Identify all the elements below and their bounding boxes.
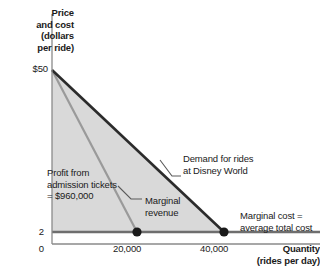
demand-annotation: Demand for rides at Disney World [183,153,253,176]
x-axis-title: Quantity (rides per day) [238,243,320,266]
y-tick-label-0: 0 [28,243,44,255]
marginal-revenue-annotation: Marginal revenue [145,195,180,218]
demand-annotation-line-2: at Disney World [183,165,253,177]
data-point-40000 [219,227,228,236]
data-point-20000 [132,227,141,236]
y-axis-title-line-3: (dollars [0,30,74,42]
y-axis-title-line-1: Price [0,7,74,19]
profit-annotation-line-2: admission tickets [47,179,117,191]
marginal-revenue-annotation-line-2: revenue [145,207,180,219]
x-tick-label-40000: 40,000 [200,243,228,255]
demand-annotation-line-1: Demand for rides [183,153,253,165]
profit-annotation: Profit from admission tickets = $960,000 [47,167,117,202]
y-axis-title-line-2: and cost [0,19,74,31]
marginal-cost-annotation-line-2: average total cost [240,222,312,234]
marginal-cost-annotation-line-1: Marginal cost = [240,210,312,222]
y-axis-title: Price and cost (dollars per ride) [0,7,74,53]
x-axis-title-line-1: Quantity [238,243,320,255]
marginal-cost-annotation: Marginal cost = average total cost [240,210,312,233]
x-axis-title-line-2: (rides per day) [238,255,320,267]
x-tick-label-20000: 20,000 [113,243,141,255]
chart-figure: Price and cost (dollars per ride) $50 2 … [0,0,320,270]
profit-annotation-line-1: Profit from [47,167,117,179]
profit-annotation-line-3: = $960,000 [47,190,117,202]
marginal-revenue-annotation-line-1: Marginal [145,195,180,207]
y-tick-label-50: $50 [14,63,48,75]
y-tick-label-2: 2 [28,226,44,238]
y-axis-title-line-4: per ride) [0,42,74,54]
